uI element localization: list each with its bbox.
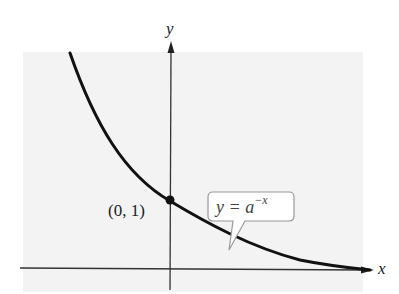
exponential-decay-figure: y x (0, 1) y = a−x [0,0,399,294]
function-base: y = a [216,197,254,217]
y-axis-label: y [166,20,174,37]
function-label: y = a−x [216,196,268,216]
point-0-1 [166,196,175,205]
function-exponent: −x [254,193,267,207]
point-label: (0, 1) [108,202,145,219]
graph-canvas [0,0,399,294]
y-axis-arrow-icon [168,41,175,53]
x-axis-label: x [378,260,386,277]
background-panel [23,52,363,292]
